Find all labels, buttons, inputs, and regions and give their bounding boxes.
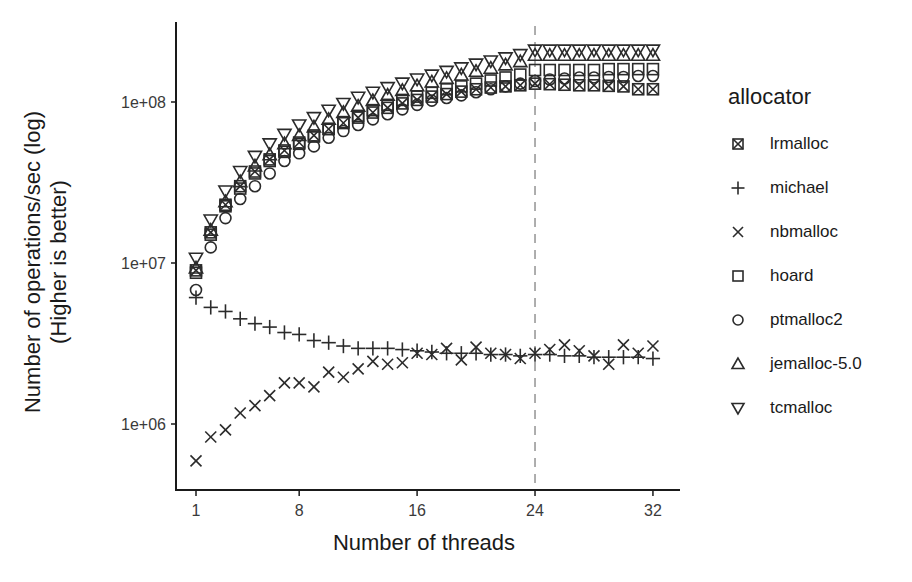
legend-item-tcmalloc: tcmalloc xyxy=(728,386,862,430)
legend: allocator lrmallocmichaelnbmallochoardpt… xyxy=(728,84,862,430)
y-axis-ticks: 1e+061e+071e+08 xyxy=(121,94,176,433)
x-tick-label: 16 xyxy=(408,502,426,519)
x-axis-title: Number of threads xyxy=(333,530,515,555)
circle-marker-icon xyxy=(728,310,748,330)
legend-label: michael xyxy=(770,178,829,198)
triangle-up-marker-icon xyxy=(728,354,748,374)
legend-label: ptmalloc2 xyxy=(770,310,843,330)
legend-item-lrmalloc: lrmalloc xyxy=(728,122,862,166)
y-tick-label: 1e+06 xyxy=(121,416,166,433)
data-points xyxy=(189,45,660,466)
legend-label: nbmalloc xyxy=(770,222,838,242)
legend-item-nbmalloc: nbmalloc xyxy=(728,210,862,254)
plus-marker-icon xyxy=(728,178,748,198)
legend-label: jemalloc-5.0 xyxy=(770,354,862,374)
y-axis-subtitle: (Higher is better) xyxy=(46,180,71,344)
y-tick-label: 1e+07 xyxy=(121,255,166,272)
x-tick-label: 8 xyxy=(295,502,304,519)
legend-label: lrmalloc xyxy=(770,134,829,154)
x-tick-label: 24 xyxy=(526,502,544,519)
triangle-down-marker-icon xyxy=(728,398,748,418)
legend-label: tcmalloc xyxy=(770,398,832,418)
series-nbmalloc xyxy=(191,339,659,466)
y-tick-label: 1e+08 xyxy=(121,94,166,111)
square-marker-icon xyxy=(728,266,748,286)
x-axis-ticks: 18162432 xyxy=(192,490,662,519)
x-marker-icon xyxy=(728,222,748,242)
legend-item-michael: michael xyxy=(728,166,862,210)
legend-item-hoard: hoard xyxy=(728,254,862,298)
legend-item-ptmalloc2: ptmalloc2 xyxy=(728,298,862,342)
legend-items: lrmallocmichaelnbmallochoardptmalloc2jem… xyxy=(728,122,862,430)
x-tick-label: 1 xyxy=(192,502,201,519)
legend-item-jemalloc-5.0: jemalloc-5.0 xyxy=(728,342,862,386)
y-axis-title: Number of operations/sec (log) xyxy=(20,111,45,413)
square-x-marker-icon xyxy=(728,134,748,154)
x-tick-label: 32 xyxy=(644,502,662,519)
legend-title: allocator xyxy=(728,84,862,110)
legend-label: hoard xyxy=(770,266,813,286)
series-michael xyxy=(189,290,660,365)
series-ptmalloc2 xyxy=(191,71,659,296)
